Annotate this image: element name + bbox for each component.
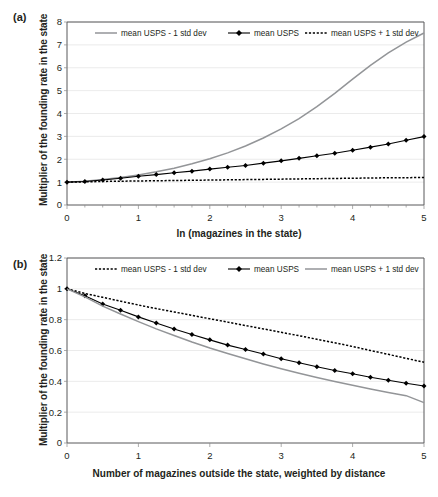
data-point-marker [261,352,266,357]
panel-b-plot: 00.20.40.60.811.2012345mean USPS - 1 std… [0,250,438,497]
legend-swatch-marker [236,30,242,36]
data-point-marker [314,153,319,158]
figure-container: (a) Multiplier of the founding rate in t… [0,0,438,497]
y-tick-label: 0 [57,437,62,448]
x-tick-label: 0 [64,450,69,461]
data-point-marker [422,134,427,139]
data-point-marker [189,332,194,337]
x-tick-label: 0 [64,212,69,223]
x-tick-label: 1 [136,212,141,223]
y-tick-label: 4 [57,108,62,119]
data-point-marker [386,141,391,146]
x-tick-label: 3 [279,212,284,223]
y-tick-label: 3 [57,131,62,142]
data-point-marker [350,371,355,376]
y-tick-label: 8 [57,16,62,27]
data-point-marker [368,145,373,150]
panel-a: (a) Multiplier of the founding rate in t… [0,0,438,250]
y-tick-label: 1.2 [49,252,62,263]
y-tick-label: 0.8 [49,314,62,325]
data-point-marker [297,156,302,161]
y-tick-label: 2 [57,154,62,165]
legend-label: mean USPS + 1 std dev [331,265,420,274]
data-point-marker [404,138,409,143]
panel-b: (b) Multiplier of the founding rate in t… [0,250,438,497]
x-tick-label: 1 [136,450,141,461]
y-tick-label: 7 [57,39,62,50]
data-point-marker [154,320,159,325]
x-tick-label: 3 [279,450,284,461]
legend-swatch-marker [236,266,242,272]
y-tick-label: 6 [57,62,62,73]
data-point-marker [243,163,248,168]
x-tick-label: 5 [421,450,426,461]
legend-label: mean USPS [254,265,300,274]
data-point-marker [279,356,284,361]
data-point-marker [172,170,177,175]
y-tick-label: 1 [57,283,62,294]
data-point-marker [422,383,427,388]
data-point-marker [261,161,266,166]
x-tick-label: 2 [207,450,212,461]
data-point-marker [297,360,302,365]
panel-a-plot: 012345678012345mean USPS - 1 std devmean… [0,0,438,250]
data-point-marker [207,167,212,172]
legend-label: mean USPS + 1 std dev [331,29,420,38]
y-tick-label: 0 [57,199,62,210]
data-point-marker [189,169,194,174]
legend-label: mean USPS - 1 std dev [121,29,207,38]
legend-label: mean USPS - 1 std dev [121,265,207,274]
data-point-marker [225,343,230,348]
data-point-marker [118,176,123,181]
data-point-marker [207,337,212,342]
data-point-marker [172,327,177,332]
y-tick-label: 0.6 [49,345,62,356]
series-line-solid-gray [67,33,424,182]
data-point-marker [225,165,230,170]
data-point-marker [118,308,123,313]
data-point-marker [243,347,248,352]
data-point-marker [386,378,391,383]
data-point-marker [136,314,141,319]
y-tick-label: 1 [57,177,62,188]
x-tick-label: 2 [207,212,212,223]
data-point-marker [332,368,337,373]
x-tick-label: 4 [350,212,355,223]
series-line-marker-line [67,289,424,386]
x-tick-label: 5 [421,212,426,223]
data-point-marker [350,148,355,153]
y-tick-label: 0.4 [49,376,62,387]
y-tick-label: 5 [57,85,62,96]
legend-label: mean USPS [254,29,300,38]
data-point-marker [368,375,373,380]
x-tick-label: 4 [350,450,355,461]
data-point-marker [314,364,319,369]
y-tick-label: 0.2 [49,407,62,418]
series-line-solid-gray [67,289,424,403]
data-point-marker [332,151,337,156]
